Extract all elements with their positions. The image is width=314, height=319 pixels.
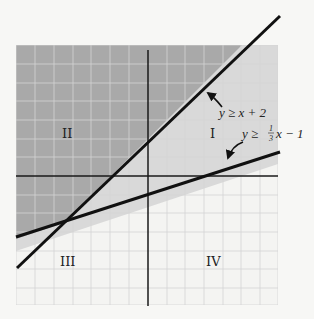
- quadrant-label-iii: III: [60, 254, 75, 269]
- fraction-numerator: 1: [269, 124, 273, 133]
- inequality-graph: II I III IV y ≥ x + 2 y ≥ 1 3 x − 1: [0, 0, 314, 319]
- quadrant-label-iv: IV: [206, 254, 221, 269]
- quadrant-label-ii: II: [62, 126, 72, 141]
- fraction-denominator: 3: [268, 134, 273, 143]
- quadrant-label-i: I: [210, 126, 215, 141]
- ineq2-prefix: y ≥: [240, 126, 258, 141]
- svg-text:y ≥: y ≥: [240, 126, 258, 141]
- ineq2-suffix: x − 1: [275, 126, 304, 141]
- inequality-label-2: y ≥ 1 3 x − 1: [240, 124, 304, 143]
- inequality-label-1: y ≥ x + 2: [217, 105, 266, 120]
